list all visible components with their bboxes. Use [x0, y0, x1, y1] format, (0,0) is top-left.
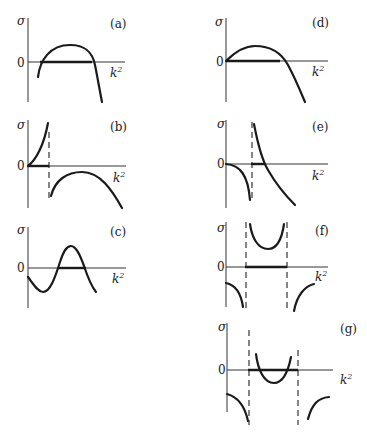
dispersion-curve-left [227, 394, 248, 421]
panel-e: σ 0 k2 (e) [217, 117, 328, 208]
panel-label: (a) [110, 17, 127, 31]
dispersion-curve [226, 46, 305, 102]
panel-c: σ 0 k2 (c) [17, 223, 126, 308]
k-label: k2 [112, 271, 124, 286]
sigma-label: σ [218, 320, 227, 334]
dispersion-diagrams: σ 0 k2 (a) σ 0 k2 (d) σ 0 k2 (b) σ 0 [0, 0, 367, 433]
k-label: k2 [340, 372, 352, 387]
panel-f: σ 0 k2 (f) [217, 221, 329, 311]
k-label: k2 [315, 269, 327, 284]
panel-label: (c) [110, 225, 126, 239]
dispersion-curve-right [51, 172, 122, 208]
sigma-label: σ [217, 221, 226, 235]
origin-label: 0 [17, 159, 25, 173]
dispersion-curve-middle [256, 354, 291, 383]
panel-g: σ 0 k2 (g) [218, 320, 357, 425]
origin-label: 0 [216, 55, 224, 69]
origin-label: 0 [17, 261, 25, 275]
panel-b: σ 0 k2 (b) [17, 118, 127, 208]
sigma-label: σ [17, 118, 26, 132]
origin-label: 0 [217, 157, 225, 171]
k-label: k2 [113, 170, 125, 185]
panel-label: (d) [312, 16, 329, 30]
sigma-label: σ [217, 117, 226, 131]
origin-label: 0 [217, 260, 225, 274]
panel-a: σ 0 k2 (a) [17, 14, 127, 102]
sigma-label: σ [215, 15, 224, 29]
panel-label: (g) [340, 322, 357, 336]
dispersion-curve-right [308, 397, 329, 419]
panel-label: (b) [110, 120, 127, 134]
k-label: k2 [110, 65, 122, 80]
sigma-label: σ [17, 223, 26, 237]
dispersion-curve-left [226, 283, 243, 307]
k-label: k2 [312, 64, 324, 79]
panel-d: σ 0 k2 (d) [215, 15, 329, 102]
dispersion-curve [38, 45, 102, 102]
dispersion-curve-left [226, 164, 250, 200]
dispersion-curve-left [28, 123, 48, 166]
sigma-label: σ [17, 14, 26, 28]
dispersion-curve-middle [250, 224, 284, 249]
panel-label: (e) [312, 120, 328, 134]
origin-label: 0 [218, 363, 226, 377]
k-label: k2 [312, 168, 324, 183]
panel-label: (f) [315, 224, 329, 238]
dispersion-curve-right [294, 284, 314, 311]
origin-label: 0 [17, 56, 25, 70]
